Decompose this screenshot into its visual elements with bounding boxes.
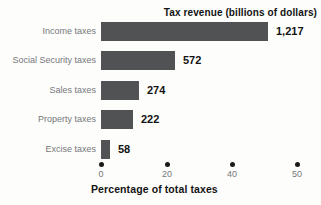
tick-dot-icon bbox=[230, 162, 235, 167]
category-label-income-taxes: Income taxes bbox=[0, 22, 96, 41]
category-label-sales-taxes: Sales taxes bbox=[0, 81, 96, 100]
bar-property-taxes bbox=[101, 110, 133, 129]
bar-excise-taxes bbox=[101, 140, 110, 159]
bar-income-taxes bbox=[101, 22, 268, 41]
tick-dot-icon bbox=[165, 162, 170, 167]
tax-revenue-bar-chart: Tax revenue (billions of dollars) Income… bbox=[0, 0, 321, 205]
x-axis-title: Percentage of total taxes bbox=[91, 183, 218, 195]
tick-label-0: 0 bbox=[86, 169, 116, 179]
bar-row-property-taxes: Property taxes 222 bbox=[0, 110, 321, 129]
bar-row-income-taxes: Income taxes 1,217 bbox=[0, 22, 321, 41]
tick-dot-icon bbox=[295, 162, 300, 167]
tick-label-20: 20 bbox=[152, 169, 182, 179]
value-label-property-taxes: 222 bbox=[141, 110, 159, 129]
tick-label-40: 40 bbox=[217, 169, 247, 179]
value-label-income-taxes: 1,217 bbox=[276, 22, 304, 41]
value-label-sales-taxes: 274 bbox=[147, 81, 165, 100]
bar-row-social-security-taxes: Social Security taxes 572 bbox=[0, 51, 321, 70]
bar-row-sales-taxes: Sales taxes 274 bbox=[0, 81, 321, 100]
chart-title: Tax revenue (billions of dollars) bbox=[164, 7, 317, 18]
category-label-property-taxes: Property taxes bbox=[0, 110, 96, 129]
tick-dot-icon bbox=[99, 162, 104, 167]
category-label-social-security-taxes: Social Security taxes bbox=[0, 51, 96, 70]
bar-social-security-taxes bbox=[101, 51, 175, 70]
tick-label-50: 50 bbox=[282, 169, 312, 179]
bar-sales-taxes bbox=[101, 81, 139, 100]
value-label-excise-taxes: 58 bbox=[118, 140, 130, 159]
bar-row-excise-taxes: Excise taxes 58 bbox=[0, 140, 321, 159]
category-label-excise-taxes: Excise taxes bbox=[0, 140, 96, 159]
value-label-social-security-taxes: 572 bbox=[183, 51, 201, 70]
